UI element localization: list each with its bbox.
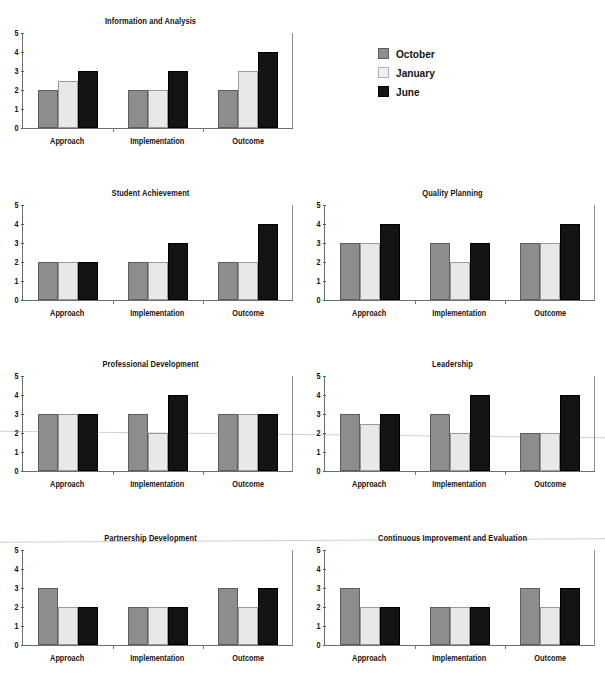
bar-june[interactable] <box>168 71 188 128</box>
bar-june[interactable] <box>168 243 188 300</box>
bar-january[interactable] <box>450 262 470 300</box>
y-axis-tick-label: 4 <box>316 391 320 399</box>
bar-january[interactable] <box>148 262 168 300</box>
y-axis-tick-label: 3 <box>316 239 320 247</box>
bar-group <box>113 33 203 128</box>
bar-june[interactable] <box>560 224 580 300</box>
bar-june[interactable] <box>258 588 278 645</box>
bar-january[interactable] <box>58 81 78 129</box>
bar-june[interactable] <box>560 395 580 471</box>
bar-october[interactable] <box>520 243 540 300</box>
bar-october[interactable] <box>218 588 238 645</box>
bar-january[interactable] <box>360 243 380 300</box>
bar-january[interactable] <box>360 607 380 645</box>
bar-october[interactable] <box>128 90 148 128</box>
bar-october[interactable] <box>218 262 238 300</box>
x-axis-tick-label: Implementation <box>119 479 197 490</box>
bar-october[interactable] <box>430 243 450 300</box>
bar-june[interactable] <box>168 607 188 645</box>
bar-january[interactable] <box>360 424 380 472</box>
bar-october[interactable] <box>128 414 148 471</box>
bar-october[interactable] <box>38 414 58 471</box>
bar-june[interactable] <box>258 224 278 300</box>
bar-january[interactable] <box>450 607 470 645</box>
bar-january[interactable] <box>450 433 470 471</box>
bar-group <box>23 550 113 645</box>
bar-group <box>203 33 293 128</box>
bar-october[interactable] <box>430 414 450 471</box>
y-axis: 543210 <box>310 205 324 304</box>
bar-january[interactable] <box>540 607 560 645</box>
bar-january[interactable] <box>148 90 168 128</box>
bar-january[interactable] <box>540 433 560 471</box>
y-axis-tick-label: 0 <box>14 641 18 649</box>
bar-october[interactable] <box>218 414 238 471</box>
bar-january[interactable] <box>238 262 258 300</box>
bar-january[interactable] <box>58 607 78 645</box>
x-axis-tick-mark <box>415 300 416 304</box>
x-axis-tick-label: Outcome <box>511 308 589 319</box>
bar-january[interactable] <box>58 414 78 471</box>
bar-june[interactable] <box>380 414 400 471</box>
bar-june[interactable] <box>470 395 490 471</box>
bar-january[interactable] <box>148 607 168 645</box>
bar-october[interactable] <box>340 243 360 300</box>
x-axis-tick-label: Approach <box>28 653 106 664</box>
bar-group <box>505 376 595 471</box>
bar-groups <box>23 33 293 128</box>
bar-june[interactable] <box>78 414 98 471</box>
y-axis: 543210 <box>8 550 22 649</box>
x-axis-tick-label: Implementation <box>119 136 197 147</box>
x-axis-tick-label: Approach <box>28 308 106 319</box>
bar-group <box>505 205 595 300</box>
y-axis-tick-label: 2 <box>316 603 320 611</box>
x-axis-tick-mark <box>113 471 114 475</box>
bar-group <box>203 550 293 645</box>
bar-june[interactable] <box>258 414 278 471</box>
y-axis-tick-label: 1 <box>14 105 18 113</box>
plot-area: 543210 <box>310 205 595 304</box>
bar-october[interactable] <box>520 433 540 471</box>
bar-october[interactable] <box>340 414 360 471</box>
bar-october[interactable] <box>128 262 148 300</box>
bar-january[interactable] <box>58 262 78 300</box>
bar-october[interactable] <box>218 90 238 128</box>
chart-title: Professional Development <box>25 359 276 370</box>
y-axis: 543210 <box>310 376 324 475</box>
bar-june[interactable] <box>78 71 98 128</box>
bar-june[interactable] <box>78 262 98 300</box>
x-axis-tick-label: Outcome <box>209 653 287 664</box>
bar-june[interactable] <box>380 607 400 645</box>
bar-june[interactable] <box>380 224 400 300</box>
x-axis-tick-mark <box>415 645 416 649</box>
bar-group <box>23 376 113 471</box>
bar-january[interactable] <box>238 414 258 471</box>
bar-june[interactable] <box>470 243 490 300</box>
y-axis-tick-label: 3 <box>14 67 18 75</box>
bar-october[interactable] <box>128 607 148 645</box>
x-axis-tick-mark <box>113 645 114 649</box>
bar-june[interactable] <box>78 607 98 645</box>
y-axis-tick-label: 3 <box>14 584 18 592</box>
bar-january[interactable] <box>238 607 258 645</box>
bar-october[interactable] <box>340 588 360 645</box>
bar-october[interactable] <box>38 588 58 645</box>
x-axis-tick-mark <box>113 128 114 132</box>
bar-january[interactable] <box>238 71 258 128</box>
bar-october[interactable] <box>520 588 540 645</box>
y-axis-tick-label: 0 <box>316 296 320 304</box>
plot-frame <box>22 33 293 129</box>
x-axis-tick-label: Approach <box>330 479 408 490</box>
bar-june[interactable] <box>168 395 188 471</box>
bar-october[interactable] <box>38 90 58 128</box>
bar-june[interactable] <box>470 607 490 645</box>
y-axis-tick-label: 1 <box>316 622 320 630</box>
bar-october[interactable] <box>430 607 450 645</box>
bar-june[interactable] <box>258 52 278 128</box>
plot-area: 543210 <box>8 33 293 132</box>
bar-october[interactable] <box>38 262 58 300</box>
bar-january[interactable] <box>148 433 168 471</box>
bar-june[interactable] <box>560 588 580 645</box>
bar-january[interactable] <box>540 243 560 300</box>
x-axis-tick-label: Approach <box>28 479 106 490</box>
